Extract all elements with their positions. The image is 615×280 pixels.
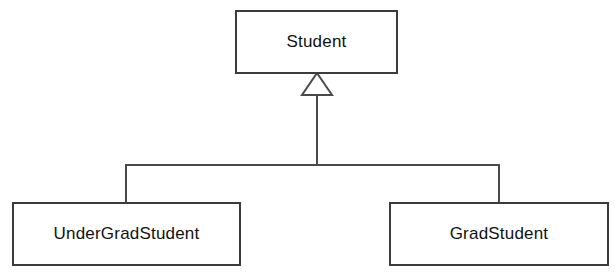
uml-class-diagram-canvas: Student UnderGradStudent GradStudent	[0, 0, 615, 280]
class-box-gradstudent[interactable]: GradStudent	[390, 203, 608, 265]
class-box-student[interactable]: Student	[236, 11, 397, 73]
class-box-undergradstudent-label: UnderGradStudent	[54, 224, 200, 243]
class-box-undergradstudent[interactable]: UnderGradStudent	[13, 203, 240, 265]
class-box-gradstudent-label: GradStudent	[450, 224, 549, 243]
diagram-svg: Student UnderGradStudent GradStudent	[0, 0, 615, 280]
generalization-connector-group	[126, 73, 499, 203]
class-box-student-label: Student	[286, 32, 346, 51]
inheritance-hollow-triangle-icon	[302, 73, 332, 95]
